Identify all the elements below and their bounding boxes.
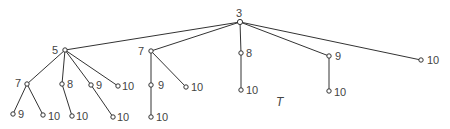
tree-edges: [0, 0, 450, 129]
node-label: 10: [334, 86, 346, 98]
tree-node: [419, 58, 423, 62]
node-label: 8: [246, 47, 252, 59]
node-label: 8: [67, 78, 73, 90]
node-label: 9: [96, 79, 102, 91]
tree-edge: [151, 51, 186, 87]
tree-node: [149, 83, 153, 87]
node-label: 10: [427, 54, 439, 66]
tree-node: [41, 113, 45, 117]
tree-node: [184, 85, 188, 89]
node-label: 7: [138, 45, 144, 57]
tree-node: [111, 115, 115, 119]
tree-edge: [27, 50, 65, 84]
node-label: 9: [158, 79, 164, 91]
node-label: 10: [246, 84, 258, 96]
tree-node: [60, 82, 64, 86]
tree-edge: [240, 22, 241, 53]
tree-node: [70, 114, 74, 118]
tree-edge: [27, 84, 43, 115]
tree-edge: [65, 22, 240, 50]
tree-node: [149, 115, 153, 119]
tree-label: T: [276, 96, 283, 108]
tree-node: [116, 84, 120, 88]
tree-edge: [240, 22, 329, 56]
tree-node: [149, 49, 153, 53]
node-label: 10: [191, 81, 203, 93]
tree-node: [11, 112, 15, 116]
tree-diagram: T 3578910789109101010910101010: [0, 0, 450, 129]
tree-node: [25, 82, 29, 86]
tree-node: [63, 48, 67, 52]
tree-node: [327, 89, 331, 93]
node-label: 9: [335, 50, 341, 62]
node-label: 5: [52, 44, 58, 56]
node-label: 3: [236, 7, 242, 19]
node-label: 10: [76, 110, 88, 122]
node-label: 7: [15, 77, 21, 89]
node-label: 10: [117, 111, 129, 123]
tree-node: [239, 51, 243, 55]
node-label: 10: [48, 110, 60, 122]
tree-node: [239, 88, 243, 92]
tree-edge: [62, 50, 65, 84]
tree-node: [237, 19, 242, 24]
tree-node: [327, 54, 331, 58]
node-label: 9: [18, 108, 24, 120]
node-label: 10: [122, 80, 134, 92]
node-label: 10: [156, 111, 168, 123]
tree-node: [89, 83, 93, 87]
tree-edge: [151, 22, 240, 51]
